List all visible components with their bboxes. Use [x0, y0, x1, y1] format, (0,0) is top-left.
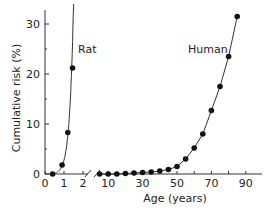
human-curve: [100, 17, 238, 175]
y-tick-label: 0: [33, 168, 40, 181]
points: [50, 14, 240, 177]
x-axis-label: Age (years): [143, 192, 207, 205]
human-data-point: [174, 164, 180, 170]
human-data-point: [200, 131, 206, 137]
human-data-point: [105, 171, 111, 177]
rat-data-point: [50, 171, 56, 177]
human-data-point: [209, 108, 215, 114]
human-data-point: [217, 84, 223, 90]
human-data-point: [166, 167, 172, 173]
cumulative-risk-chart: 01020300121030507090RatHuman Cumulative …: [0, 0, 273, 215]
rat-data-point: [65, 130, 71, 136]
y-tick-label: 10: [26, 118, 40, 131]
x-tick-label: 1: [61, 177, 68, 190]
human-data-point: [97, 171, 103, 177]
x-tick-label: 90: [239, 177, 253, 190]
y-tick-label: 20: [26, 68, 40, 81]
human-data-point: [157, 168, 163, 174]
x-tick-label: 70: [204, 177, 218, 190]
human-data-point: [114, 171, 120, 177]
rat-data-point: [70, 65, 76, 71]
human-data-point: [148, 169, 154, 175]
x-tick-label: 10: [101, 177, 115, 190]
rat-data-point: [59, 162, 65, 168]
x-tick-label: 50: [170, 177, 184, 190]
y-axis-label: Cumulative risk (%): [10, 44, 23, 153]
human-data-point: [123, 171, 129, 177]
rat-series-label: Rat: [78, 43, 97, 56]
rat-curve: [52, 4, 74, 174]
human-data-point: [140, 170, 146, 176]
human-data-point: [131, 170, 137, 176]
y-tick-label: 30: [26, 18, 40, 31]
human-data-point: [234, 14, 240, 20]
x-tick-label: 0: [42, 177, 49, 190]
x-tick-label: 2: [80, 177, 87, 190]
human-series-label: Human: [188, 43, 228, 56]
human-data-point: [191, 145, 197, 151]
human-data-point: [183, 156, 189, 162]
curves: [52, 4, 238, 174]
x-tick-label: 30: [136, 177, 150, 190]
axes: [45, 10, 262, 177]
